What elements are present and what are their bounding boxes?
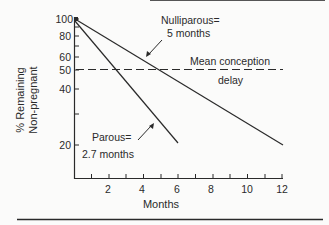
- origin-marker: [74, 17, 78, 21]
- nulliparous-arrowhead-icon: [146, 51, 151, 57]
- xtick-4: 4: [139, 183, 145, 195]
- chart-figure: 100 80 60 50 40 20 2 4 6 8 10 12 Months …: [0, 0, 329, 225]
- mean-label-1: Mean conception: [190, 55, 270, 67]
- x-tick-labels: 2 4 6 8 10 12: [105, 183, 288, 195]
- xtick-2: 2: [105, 183, 111, 195]
- mean-label-2: delay: [218, 74, 244, 86]
- parous-line: [75, 21, 178, 143]
- parous-label-1: Parous=: [92, 131, 131, 143]
- ytick-80: 80: [59, 30, 71, 42]
- xtick-6: 6: [174, 183, 180, 195]
- ytick-100: 100: [55, 13, 73, 25]
- xtick-8: 8: [208, 183, 214, 195]
- nulliparous-label-1: Nulliparous=: [161, 14, 220, 26]
- chart-svg: 100 80 60 50 40 20 2 4 6 8 10 12 Months …: [0, 0, 329, 225]
- ytick-40: 40: [59, 83, 71, 95]
- nulliparous-arrow: [149, 40, 162, 54]
- xtick-10: 10: [241, 183, 253, 195]
- parous-arrowhead-icon: [149, 123, 154, 129]
- x-axis-label: Months: [143, 198, 180, 210]
- y-tick-labels: 100 80 60 50 40 20: [55, 13, 73, 151]
- ytick-20: 20: [59, 139, 71, 151]
- ytick-60: 60: [59, 51, 71, 63]
- y-axis-label: % Remaining Non-pregnant: [14, 66, 39, 133]
- parous-label-2: 2.7 months: [82, 148, 134, 160]
- nulliparous-label-2: 5 months: [167, 27, 210, 39]
- y-label-line2: Non-pregnant: [27, 66, 39, 133]
- parous-arrow: [138, 126, 151, 140]
- xtick-12: 12: [276, 183, 288, 195]
- y-label-line1: % Remaining: [14, 67, 26, 132]
- ytick-50: 50: [59, 64, 71, 76]
